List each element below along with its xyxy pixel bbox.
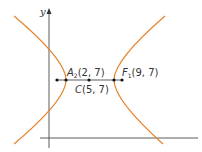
vertex-a2-point — [64, 78, 67, 81]
hyperbola-diagram: y A2(2, 7) C(5, 7) F1(9, 7) — [0, 0, 202, 152]
vertex-right-point — [112, 78, 115, 81]
y-axis-label: y — [39, 6, 46, 17]
y-axis-arrow-icon — [47, 8, 52, 14]
label-f1: F1(9, 7) — [122, 67, 159, 79]
label-a2: A2(2, 7) — [66, 67, 105, 79]
focus-left-point — [55, 78, 58, 81]
focus-f1-point — [120, 78, 123, 81]
center-point — [87, 78, 90, 81]
label-c: C(5, 7) — [75, 84, 109, 95]
